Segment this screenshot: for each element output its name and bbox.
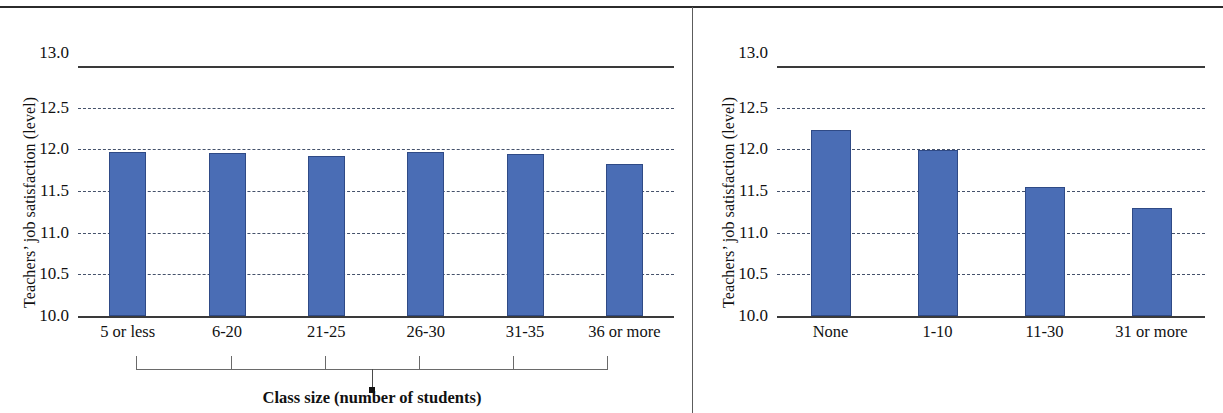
- bar-none: [811, 130, 851, 316]
- y-axis-tick-label: 12.0: [738, 139, 768, 159]
- y-axis-tick-label: 11.0: [739, 223, 768, 243]
- y-axis-tick-label: 10.5: [39, 264, 69, 284]
- bar-26-30: [407, 152, 444, 316]
- y-axis-tick-label: 13.0: [738, 43, 768, 63]
- x-axis-tick-label: 1-10: [922, 322, 952, 342]
- x-axis-category-labels-left: 5 or less6-2021-2526-3031-3536 or more: [78, 322, 674, 346]
- bar-21-25: [308, 156, 345, 316]
- figure-two-bar-charts: Teachers’ job satisfaction (level) 13.01…: [0, 0, 1223, 413]
- bar-31-or-more: [1132, 208, 1172, 316]
- bracket-tick: [419, 356, 420, 369]
- x-axis-tick-label: 26-30: [406, 322, 445, 342]
- x-axis-tick-label: None: [813, 322, 849, 342]
- x-axis-tick-label: 11-30: [1026, 322, 1064, 342]
- x-axis-tick-label: 6-20: [212, 322, 242, 342]
- x-axis-tick-label: 5 or less: [100, 322, 155, 342]
- x-axis-tick-label: 21-25: [307, 322, 346, 342]
- y-axis-title-right: Teachers’ job satisfaction (level): [720, 97, 738, 308]
- y-axis-tick-label: 10.0: [738, 306, 768, 326]
- bracket-stem: [372, 369, 373, 388]
- y-axis-tick-label: 11.0: [40, 223, 69, 243]
- x-axis-category-labels-right: None1-1011-3031 or more: [777, 322, 1205, 346]
- bar-1-10: [918, 150, 958, 316]
- y-axis-tick-label: 11.5: [40, 181, 69, 201]
- bracket-tick: [513, 356, 514, 369]
- y-axis-tick-label: 12.5: [39, 98, 69, 118]
- bar-11-30: [1025, 187, 1065, 316]
- x-axis-tick-label: 36 or more: [588, 322, 660, 342]
- plot-area-left: 13.012.512.011.511.010.510.0: [78, 66, 674, 316]
- x-axis-tick-label: 31 or more: [1115, 322, 1187, 342]
- y-axis-tick-label: 10.5: [738, 264, 768, 284]
- bracket-tick: [231, 356, 232, 369]
- x-axis-tick-label: 31-35: [506, 322, 545, 342]
- bar-5-or-less: [109, 152, 146, 316]
- x-axis-bracket-left: [136, 356, 608, 370]
- plot-area-right: 13.012.512.011.511.010.510.0: [777, 66, 1205, 316]
- bar-series-left: [78, 66, 674, 316]
- bar-6-20: [209, 153, 246, 316]
- y-axis-tick-label: 11.5: [739, 181, 768, 201]
- y-axis-tick-label: 10.0: [39, 306, 69, 326]
- y-axis-tick-label: 13.0: [39, 43, 69, 63]
- y-axis-tick-label: 12.5: [738, 98, 768, 118]
- bar-36-or-more: [606, 164, 643, 316]
- bracket-tick: [325, 356, 326, 369]
- chart-panel-behavioural-problems: Teachers’ job satisfaction (level) 13.01…: [693, 0, 1223, 413]
- y-axis-tick-label: 12.0: [39, 139, 69, 159]
- bar-series-right: [777, 66, 1205, 316]
- axis-baseline-left: [78, 316, 674, 318]
- axis-baseline-right: [777, 316, 1205, 318]
- x-axis-caption-left: Class size (number of students): [136, 388, 608, 408]
- chart-panel-class-size: Teachers’ job satisfaction (level) 13.01…: [0, 0, 692, 413]
- y-axis-title-left: Teachers’ job satisfaction (level): [21, 97, 39, 308]
- bar-31-35: [507, 154, 544, 316]
